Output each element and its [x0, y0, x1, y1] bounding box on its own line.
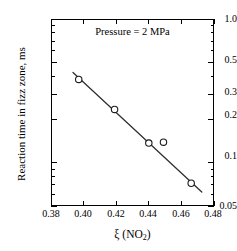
x-axis-label: ξ (NO2) — [51, 228, 214, 242]
chart-figure: 1.0 0.5 0.3 0.2 0.1 0.05 0.38 0.40 0.42 … — [0, 0, 237, 251]
y-tick-label: 0.1 — [191, 151, 237, 161]
y-tick-label: 0.3 — [191, 87, 237, 97]
y-axis-label: Reaction time in fizz zone, ms — [15, 19, 27, 209]
plot-area — [51, 19, 214, 206]
y-tick-label: 0.2 — [191, 110, 237, 120]
x-tick-label: 0.48 — [193, 209, 233, 219]
y-tick-label: 1.0 — [191, 14, 237, 24]
plot-annotation: Pressure = 2 MPa — [51, 26, 214, 37]
y-tick-label: 0.5 — [191, 55, 237, 65]
x-axis-label-suffix: ) — [147, 228, 151, 240]
x-axis-label-prefix: ξ (NO — [114, 228, 142, 240]
